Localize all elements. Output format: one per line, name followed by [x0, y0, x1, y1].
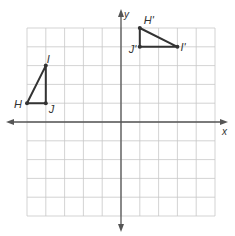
vertex-label: I'	[180, 41, 186, 53]
vertex-point	[175, 45, 179, 49]
vertex-label: I	[47, 53, 50, 65]
triangle-HIJ: HIJ	[14, 53, 55, 116]
figures: HIJH'I'J'	[14, 14, 186, 115]
vertex-point	[44, 101, 48, 105]
x-axis-arrow-right-icon	[220, 119, 228, 125]
x-axis-label: x	[221, 126, 228, 137]
y-axis-arrow-down-icon	[118, 224, 124, 232]
vertex-label: H'	[144, 14, 155, 26]
axes	[6, 9, 228, 232]
vertex-label: J'	[128, 43, 138, 55]
vertex-label: J	[48, 103, 55, 115]
vertex-point	[138, 45, 142, 49]
coordinate-plane: HIJH'I'J' x y	[0, 0, 235, 236]
y-axis-label: y	[123, 9, 130, 20]
vertex-point	[25, 101, 29, 105]
vertex-label: H	[14, 98, 22, 110]
x-axis-arrow-left-icon	[6, 119, 14, 125]
vertex-point	[138, 26, 142, 30]
